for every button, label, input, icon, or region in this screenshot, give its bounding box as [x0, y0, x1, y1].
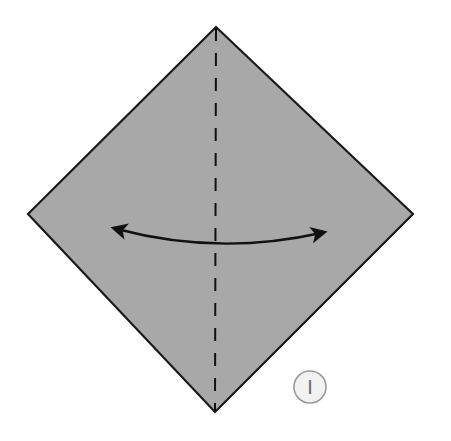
paper-square — [28, 27, 413, 412]
step-number-label: I — [307, 376, 313, 398]
step-number-badge: I — [294, 371, 326, 403]
origami-diagram: I — [0, 0, 451, 441]
